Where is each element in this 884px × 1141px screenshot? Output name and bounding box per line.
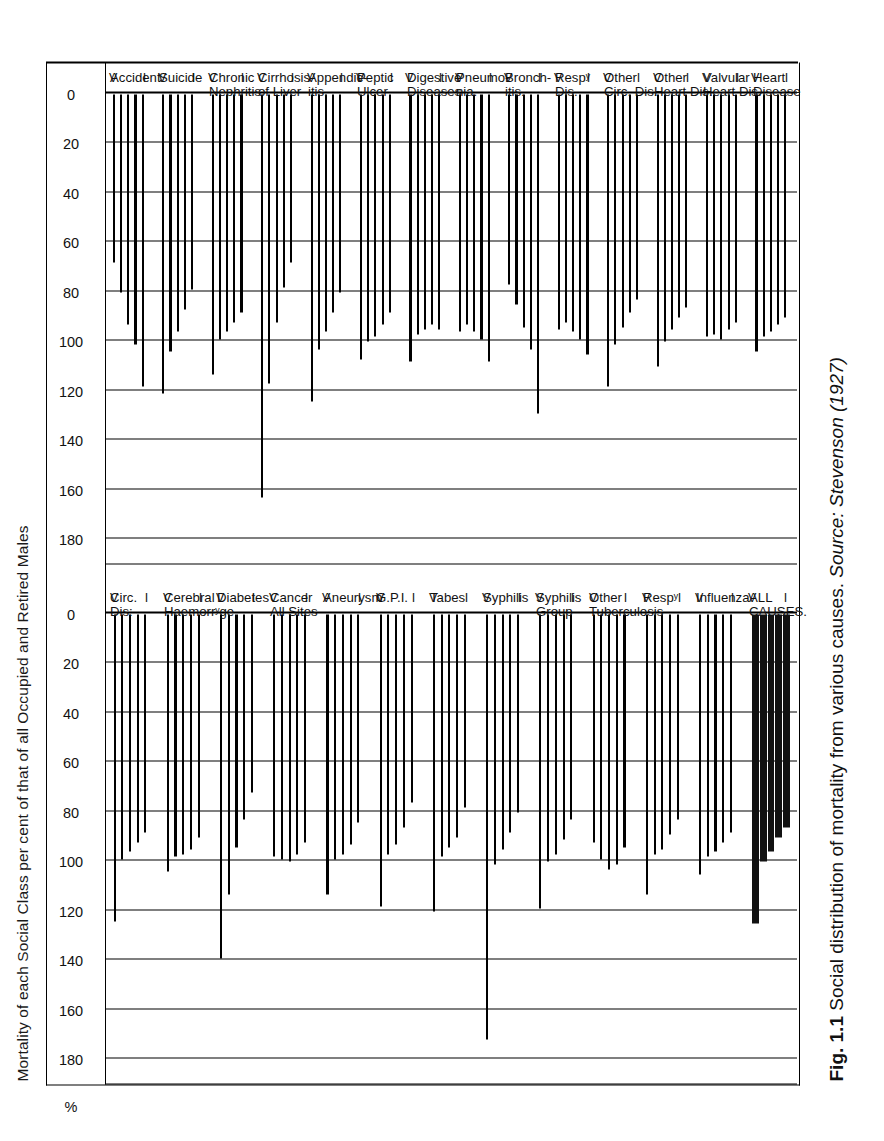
category-label-line1: Accident — [110, 69, 161, 84]
bar — [332, 94, 334, 312]
caption-text: Social distribution of mortality from va… — [826, 583, 847, 1011]
bar — [184, 94, 186, 309]
bar — [182, 614, 184, 854]
axis-percent-symbol: % — [65, 1098, 78, 1114]
bar — [190, 614, 192, 849]
bar — [775, 614, 782, 837]
bar — [768, 614, 775, 851]
bar — [677, 614, 679, 819]
bar — [448, 614, 450, 847]
bar — [614, 94, 616, 344]
figure-title: Mortality of each Social Class per cent … — [14, 525, 32, 1081]
bar-group: VI — [478, 614, 531, 1084]
bar — [169, 94, 171, 351]
bar — [220, 614, 222, 958]
bar — [783, 614, 790, 827]
bar — [720, 94, 722, 339]
axis-tick-label: 180 — [59, 1051, 83, 1067]
frame-right-edge — [46, 61, 798, 63]
bar — [318, 94, 320, 349]
bar — [417, 94, 419, 334]
figure-stage: Mortality of each Social Class per cent … — [0, 0, 884, 1141]
axis-tick-label: 160 — [59, 1002, 83, 1018]
bar — [167, 614, 169, 871]
bar-group: VI — [265, 614, 318, 1084]
category-label-line2: Group — [536, 604, 656, 618]
bar — [431, 94, 433, 324]
bar — [714, 614, 716, 851]
bar — [326, 614, 328, 894]
bar-group: VI — [105, 614, 158, 1084]
bar — [367, 94, 369, 341]
bar — [144, 614, 146, 832]
bar — [350, 614, 352, 844]
bar — [438, 94, 440, 329]
bar — [325, 94, 327, 331]
bar — [530, 94, 532, 349]
bar — [382, 94, 384, 324]
category-label: Accident — [110, 70, 230, 84]
bar — [177, 94, 179, 331]
bar — [219, 94, 221, 339]
axis-tick-label: 120 — [59, 383, 83, 399]
axis-tick-label: 0 — [67, 606, 75, 622]
caption-label: Fig. 1.1 — [826, 1016, 847, 1081]
bar — [240, 94, 242, 312]
bar — [608, 614, 610, 869]
bar — [509, 614, 511, 832]
bar — [654, 614, 656, 854]
category-label: Circ.Dis: — [110, 590, 230, 619]
bar — [480, 94, 482, 339]
bar — [134, 94, 136, 344]
bar — [570, 614, 572, 819]
bar — [523, 94, 525, 327]
axis-tick-label: 20 — [63, 655, 79, 671]
bar — [268, 94, 270, 383]
bar — [593, 614, 595, 842]
bar — [623, 614, 625, 847]
bar — [784, 94, 786, 317]
figure-caption: Fig. 1.1 Social distribution of mortalit… — [826, 357, 848, 1081]
bar — [755, 94, 757, 351]
bar — [707, 614, 709, 856]
caption-source: Source: Stevenson (1927) — [826, 357, 847, 578]
bar — [411, 614, 413, 802]
bar — [142, 94, 144, 386]
bar — [311, 94, 313, 401]
category-label-line1: Circ. — [110, 589, 137, 604]
bar — [162, 94, 164, 393]
bar — [281, 614, 283, 859]
bar — [664, 94, 666, 341]
bar — [339, 94, 341, 292]
bar — [387, 614, 389, 854]
bar — [403, 614, 405, 827]
bar — [380, 614, 382, 906]
bar — [357, 614, 359, 822]
panel-lower: VIVIVIVIVIVIVIVIVIVIVIVIVIVI — [105, 94, 797, 564]
bar — [770, 94, 772, 331]
bar — [616, 614, 618, 864]
bar — [473, 94, 475, 331]
bar — [233, 94, 235, 322]
bar-group: VI — [105, 94, 154, 564]
bar — [508, 94, 510, 284]
axis-tick-label: 140 — [59, 432, 83, 448]
bar — [334, 614, 336, 859]
bar — [622, 94, 624, 327]
bar — [657, 94, 659, 366]
bar-group: VI — [691, 614, 744, 1084]
bar — [515, 94, 517, 304]
bar-group: VI — [584, 614, 637, 1084]
bar — [243, 614, 245, 819]
bar — [441, 614, 443, 856]
bar — [706, 94, 708, 336]
bar — [558, 94, 560, 329]
bar-group: VI — [698, 94, 747, 564]
bar — [547, 614, 549, 861]
axis-tick-label: 60 — [63, 234, 79, 250]
bar — [389, 94, 391, 312]
bar — [763, 94, 765, 336]
bar — [563, 614, 565, 839]
axis-tick-label: 180 — [59, 531, 83, 547]
bar — [226, 94, 228, 331]
